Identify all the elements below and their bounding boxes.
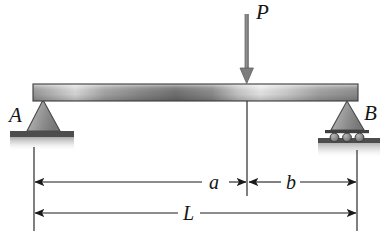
support-label-A: A (7, 103, 22, 127)
roller-support-right (325, 101, 369, 142)
beam-member (33, 84, 358, 101)
point-load-arrow (240, 14, 253, 84)
pin-support-left (27, 100, 60, 131)
support-label-B: B (364, 101, 377, 125)
beam-diagram-figure: A B P a b L (0, 0, 385, 233)
roller-wheels (330, 133, 364, 142)
extension-lines (34, 101, 357, 231)
dimension-label-b: b (286, 171, 296, 193)
dimension-label-a: a (209, 171, 219, 193)
load-label-P: P (255, 0, 269, 24)
beam-diagram-canvas: A B P a b L (0, 0, 385, 233)
dimension-label-L: L (182, 202, 194, 224)
left-support-ground (10, 131, 74, 151)
